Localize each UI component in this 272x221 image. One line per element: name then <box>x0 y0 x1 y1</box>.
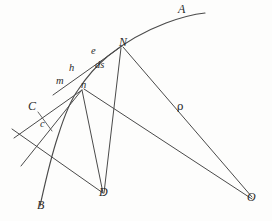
chord-n-small-to-d <box>82 90 103 193</box>
radius-n-to-o <box>123 47 252 197</box>
tangent-line-mhe <box>53 46 122 95</box>
label-point-b: B <box>37 199 44 211</box>
label-point-c-lower: c <box>40 119 45 130</box>
label-point-n: N <box>119 36 127 48</box>
radius-n-small-to-o <box>84 89 252 199</box>
label-point-e: e <box>91 46 96 57</box>
chord-n-to-d <box>104 48 121 193</box>
label-point-n-small: n <box>81 80 86 91</box>
geometry-figure: A N e ds h m n C c ρ D B O <box>0 0 272 221</box>
label-point-d: D <box>99 186 108 198</box>
label-point-m: m <box>56 76 64 87</box>
label-point-h: h <box>69 63 74 74</box>
label-point-c-upper: C <box>28 100 36 112</box>
label-radius-rho: ρ <box>177 101 183 112</box>
figure-canvas <box>0 0 272 221</box>
label-point-o: O <box>247 191 256 203</box>
ray-n-through-c <box>14 90 82 138</box>
label-arc-element-ds: ds <box>95 60 104 71</box>
label-point-a: A <box>178 3 185 15</box>
